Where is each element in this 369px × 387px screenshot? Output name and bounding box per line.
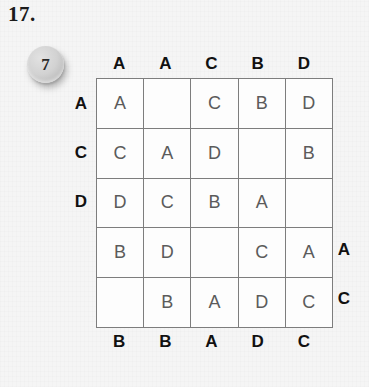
grid-cell-r5c5[interactable]: C bbox=[285, 278, 332, 328]
grid-cell-value: D bbox=[208, 144, 221, 162]
grid-row: A C B D bbox=[97, 79, 333, 129]
grid-cell-r3c3[interactable]: B bbox=[191, 178, 238, 228]
clue-top-col-4: B bbox=[235, 55, 281, 72]
grid-cell-r4c1[interactable]: B bbox=[97, 228, 144, 278]
grid-cell-value: B bbox=[114, 243, 126, 261]
clue-right-row-4: A bbox=[333, 241, 355, 258]
clue-bottom-col-5: C bbox=[281, 333, 327, 350]
grid-cell-value: C bbox=[161, 193, 174, 211]
clue-top-col-2: A bbox=[142, 55, 188, 72]
grid-cell-value: C bbox=[302, 293, 315, 311]
grid-cell-value: A bbox=[303, 243, 315, 261]
grid-row: D C B A bbox=[97, 178, 333, 228]
grid-cell-value: C bbox=[114, 144, 127, 162]
grid-cell-r2c4[interactable] bbox=[238, 128, 285, 178]
clue-bottom-col-1: B bbox=[96, 333, 142, 350]
grid-cell-value: D bbox=[255, 293, 268, 311]
grid-cell-value: C bbox=[208, 94, 221, 112]
grid-cell-r5c2[interactable]: B bbox=[144, 278, 191, 328]
clue-right-row-5: C bbox=[333, 290, 355, 307]
grid-cell-r3c2[interactable]: C bbox=[144, 178, 191, 228]
grid-cell-r3c5[interactable] bbox=[285, 178, 332, 228]
grid-cell-value: A bbox=[114, 94, 126, 112]
clue-top-col-5: D bbox=[281, 55, 327, 72]
grid-cell-value: C bbox=[255, 243, 268, 261]
clue-bottom-col-4: D bbox=[235, 333, 281, 350]
grid-cell-r1c4[interactable]: B bbox=[238, 79, 285, 129]
grid-row: B D C A bbox=[97, 228, 333, 278]
grid-cell-r4c3[interactable] bbox=[191, 228, 238, 278]
clue-bottom-col-3: A bbox=[188, 333, 234, 350]
grid-cell-value: B bbox=[303, 144, 315, 162]
grid-row: C A D B bbox=[97, 128, 333, 178]
grid-cell-r5c4[interactable]: D bbox=[238, 278, 285, 328]
clue-top-col-1: A bbox=[96, 55, 142, 72]
grid-cell-r5c1[interactable] bbox=[97, 278, 144, 328]
grid-cell-r2c3[interactable]: D bbox=[191, 128, 238, 178]
grid-row: B A D C bbox=[97, 278, 333, 328]
grid-cell-r2c1[interactable]: C bbox=[97, 128, 144, 178]
grid-cell-r2c5[interactable]: B bbox=[285, 128, 332, 178]
clue-bottom-col-2: B bbox=[142, 333, 188, 350]
puzzle-grid: A C B D C A D B D C B A B D bbox=[96, 78, 333, 328]
clue-top-col-3: C bbox=[188, 55, 234, 72]
grid-cell-r4c2[interactable]: D bbox=[144, 228, 191, 278]
grid-cell-r4c4[interactable]: C bbox=[238, 228, 285, 278]
grid-cell-value: A bbox=[208, 293, 220, 311]
grid-cell-value: D bbox=[114, 193, 127, 211]
grid-cell-value: B bbox=[256, 94, 268, 112]
grid-cell-value: D bbox=[302, 94, 315, 112]
grid-cell-r1c3[interactable]: C bbox=[191, 79, 238, 129]
grid-cell-r2c2[interactable]: A bbox=[144, 128, 191, 178]
grid-cell-value: D bbox=[161, 243, 174, 261]
grid-cell-r3c1[interactable]: D bbox=[97, 178, 144, 228]
grid-cell-r1c5[interactable]: D bbox=[285, 79, 332, 129]
clue-left-row-1: A bbox=[70, 95, 92, 112]
grid-cell-value: A bbox=[256, 193, 268, 211]
puzzle-area: A A C B D B B A D C A C D A C A C B D C … bbox=[0, 0, 369, 387]
clue-left-row-2: C bbox=[70, 144, 92, 161]
grid-cell-value: B bbox=[208, 193, 220, 211]
grid-cell-r1c2[interactable] bbox=[144, 79, 191, 129]
grid-cell-r5c3[interactable]: A bbox=[191, 278, 238, 328]
clue-left-row-3: D bbox=[70, 193, 92, 210]
grid-cell-r3c4[interactable]: A bbox=[238, 178, 285, 228]
grid-cell-value: B bbox=[161, 293, 173, 311]
grid-cell-value: A bbox=[161, 144, 173, 162]
grid-cell-r1c1[interactable]: A bbox=[97, 79, 144, 129]
grid-cell-r4c5[interactable]: A bbox=[285, 228, 332, 278]
